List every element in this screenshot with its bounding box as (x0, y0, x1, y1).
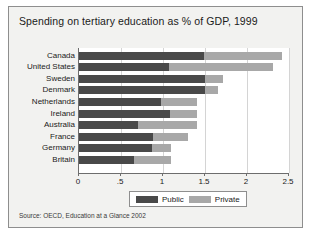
bar-row: Australia (79, 121, 197, 129)
bar-row: Denmark (79, 86, 218, 94)
bar-segment-private (134, 156, 171, 164)
x-tick (204, 173, 205, 176)
chart-title: Spending on tertiary education as % of G… (19, 15, 258, 27)
gridline (289, 48, 290, 173)
bar-segment-public (79, 156, 134, 164)
bar-segment-public (79, 98, 161, 106)
bar-row: Ireland (79, 110, 197, 118)
category-label: United States (27, 61, 75, 72)
category-label: Canada (47, 50, 75, 61)
bar-segment-public (79, 133, 153, 141)
category-label: France (50, 131, 75, 142)
category-label: Australia (44, 119, 75, 130)
screenshot-root: Spending on tertiary education as % of G… (0, 0, 311, 252)
category-label: Sweden (46, 73, 75, 84)
legend-label-private: Private (215, 195, 240, 204)
category-label: Netherlands (32, 96, 75, 107)
x-tick-label: 0 (76, 177, 80, 186)
x-tick (162, 173, 163, 176)
x-tick-label: 1 (160, 177, 164, 186)
bar-row: Sweden (79, 75, 223, 83)
legend-swatch-private (189, 196, 211, 203)
x-tick (288, 173, 289, 176)
bar-row: Canada (79, 52, 282, 60)
bar-segment-private (161, 98, 197, 106)
x-tick (78, 173, 79, 176)
plot-area: CanadaUnited StatesSwedenDenmarkNetherla… (78, 48, 289, 173)
legend-item-public: Public (136, 195, 184, 204)
category-label: Ireland (51, 108, 75, 119)
legend-label-public: Public (162, 195, 184, 204)
source-note: Source: OECD, Education at a Glance 2002 (19, 212, 146, 219)
category-label: Denmark (43, 84, 75, 95)
bar-segment-public (79, 144, 152, 152)
bar-row: Germany (79, 144, 171, 152)
x-axis: 0.511.522.5 (78, 173, 289, 174)
chart-legend: Public Private (129, 191, 247, 207)
x-tick (246, 173, 247, 176)
bar-segment-public (79, 75, 205, 83)
legend-swatch-public (136, 196, 158, 203)
x-tick-label: 1.5 (198, 177, 209, 186)
bar-segment-public (79, 110, 170, 118)
bar-segment-private (153, 133, 188, 141)
x-tick-label: 2 (244, 177, 248, 186)
bar-row: Netherlands (79, 98, 197, 106)
bar-row: France (79, 133, 188, 141)
bar-segment-public (79, 52, 204, 60)
bar-segment-private (170, 110, 198, 118)
x-tick-label: 2.5 (282, 177, 293, 186)
bar-row: Britain (79, 156, 171, 164)
category-label: Germany (42, 142, 75, 153)
x-tick (120, 173, 121, 176)
x-tick-label: .5 (117, 177, 124, 186)
bar-segment-private (169, 63, 273, 71)
chart-figure: Spending on tertiary education as % of G… (8, 6, 303, 228)
bar-segment-private (205, 86, 218, 94)
bar-segment-public (79, 86, 205, 94)
bar-segment-public (79, 63, 169, 71)
bar-segment-private (205, 75, 223, 83)
bar-segment-public (79, 121, 138, 129)
bar-segment-private (152, 144, 171, 152)
legend-item-private: Private (189, 195, 240, 204)
bar-row: United States (79, 63, 273, 71)
bar-segment-private (204, 52, 282, 60)
bar-segment-private (138, 121, 198, 129)
category-label: Britain (52, 154, 75, 165)
